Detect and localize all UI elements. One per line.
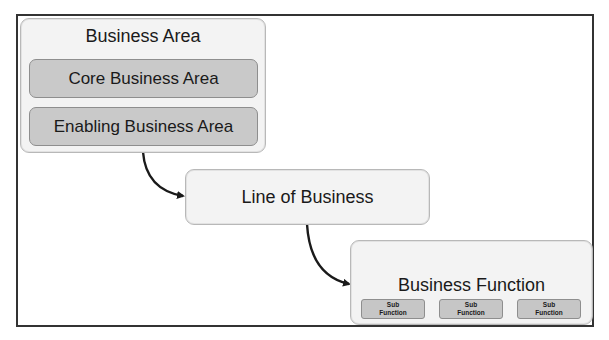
sub-function-3: Sub Function — [517, 299, 581, 319]
arrow-area-to-lob — [143, 152, 183, 196]
line-of-business-box: Line of Business — [185, 169, 430, 225]
enabling-business-area-box: Enabling Business Area — [29, 107, 258, 146]
business-area-box: Business Area Core Business Area Enablin… — [20, 18, 266, 153]
line-of-business-title: Line of Business — [186, 187, 429, 208]
arrow-lob-to-function — [307, 224, 349, 284]
sub-function-1: Sub Function — [361, 299, 425, 319]
business-function-box: Business Function Sub Function Sub Funct… — [350, 240, 593, 325]
business-function-title: Business Function — [351, 275, 592, 296]
business-area-title: Business Area — [21, 26, 265, 47]
core-business-area-box: Core Business Area — [29, 59, 258, 98]
sub-function-2: Sub Function — [439, 299, 503, 319]
